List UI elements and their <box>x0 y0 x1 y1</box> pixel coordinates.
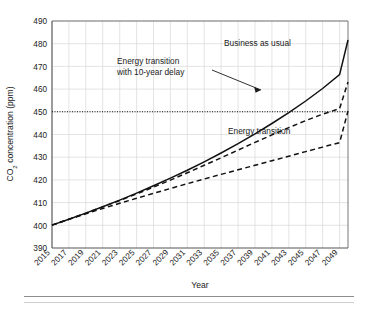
y-tick-label: 400 <box>33 222 47 231</box>
plot-area <box>52 21 348 248</box>
annotation-energy-transition-delay-line1: Energy transition <box>117 56 180 66</box>
annotation-energy-transition-delay-line2: with 10-year delay <box>116 67 185 77</box>
annotation-energy-transition: Energy transition <box>228 126 291 136</box>
chart-svg: 490 480 470 460 450 440 430 420 410 400 … <box>0 0 368 309</box>
y-tick-label: 460 <box>33 85 47 94</box>
y-tick-label: 450 <box>33 108 47 117</box>
y-tick-label: 490 <box>33 17 47 26</box>
y-tick-label: 410 <box>33 199 47 208</box>
y-tick-label: 480 <box>33 40 47 49</box>
annotation-business-as-usual: Business as usual <box>224 38 291 48</box>
y-tick-label: 470 <box>33 63 47 72</box>
y-tick-label: 420 <box>33 176 47 185</box>
co2-projection-chart-figure: 490 480 470 460 450 440 430 420 410 400 … <box>0 0 368 309</box>
x-axis-title: Year <box>191 280 209 290</box>
y-tick-label: 440 <box>33 131 47 140</box>
y-tick-label: 430 <box>33 153 47 162</box>
